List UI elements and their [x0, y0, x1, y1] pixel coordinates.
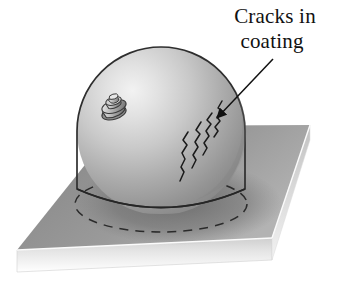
callout-label: Cracks in coating [211, 4, 339, 54]
callout-label-line-2: coating [211, 29, 339, 54]
figure-root: Cracks in coating [0, 0, 343, 287]
callout-label-line-1: Cracks in [211, 4, 339, 29]
